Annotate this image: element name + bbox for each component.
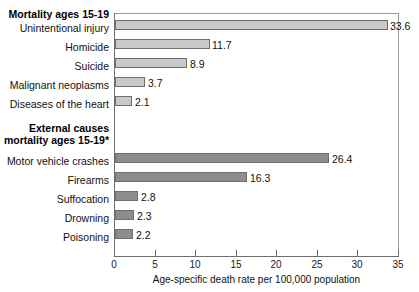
x-tick-20 xyxy=(276,250,277,257)
x-tick-label-25: 25 xyxy=(311,259,322,271)
bar-suicide xyxy=(115,58,187,68)
x-tick-30 xyxy=(357,250,358,257)
bar-drowning xyxy=(115,210,134,220)
x-tick-25 xyxy=(317,250,318,257)
group-header-mortality: Mortality ages 15-19 xyxy=(0,8,109,21)
x-tick-35 xyxy=(398,250,399,257)
group-header-external-causes-line1: External causes xyxy=(0,122,109,135)
x-tick-label-35: 35 xyxy=(392,259,403,271)
row-label-malignant-neoplasms: Malignant neoplasms xyxy=(0,79,109,91)
x-tick-5 xyxy=(155,250,156,257)
group-header-external-causes-line2: mortality ages 15-19* xyxy=(0,134,109,147)
bar-poisoning xyxy=(115,229,133,239)
row-label-suffocation: Suffocation xyxy=(0,193,109,205)
x-tick-15 xyxy=(236,250,237,257)
x-tick-label-20: 20 xyxy=(270,259,281,271)
bar-malignant-neoplasms xyxy=(115,77,145,87)
row-label-firearms: Firearms xyxy=(0,174,109,186)
x-tick-label-10: 10 xyxy=(189,259,200,271)
bar-value-malignant-neoplasms: 3.7 xyxy=(148,77,163,89)
bar-firearms xyxy=(115,172,247,182)
bar-chart: 0 5 10 15 20 25 30 35 Mortality ages 15-… xyxy=(0,0,419,292)
bar-motor-vehicle-crashes xyxy=(115,153,329,163)
bar-diseases-of-the-heart xyxy=(115,96,132,106)
bar-value-diseases-of-the-heart: 2.1 xyxy=(135,96,150,108)
row-label-unintentional-injury: Unintentional injury xyxy=(0,22,109,34)
row-label-motor-vehicle-crashes: Motor vehicle crashes xyxy=(0,155,109,167)
row-label-drowning: Drowning xyxy=(0,212,109,224)
x-axis-title: Age-specific death rate per 100,000 popu… xyxy=(114,274,399,286)
bar-suffocation xyxy=(115,191,138,201)
bar-homicide xyxy=(115,39,210,49)
plot-frame-right xyxy=(398,13,399,257)
row-label-suicide: Suicide xyxy=(0,60,109,72)
bar-value-suffocation: 2.8 xyxy=(141,191,156,203)
bar-value-unintentional-injury: 33.6 xyxy=(390,20,410,32)
y-axis-line xyxy=(114,13,115,257)
bar-value-firearms: 16.3 xyxy=(250,172,270,184)
bar-unintentional-injury xyxy=(115,20,388,30)
x-tick-label-5: 5 xyxy=(152,259,158,271)
bar-value-suicide: 8.9 xyxy=(190,58,205,70)
bar-value-poisoning: 2.2 xyxy=(136,229,151,241)
bar-value-homicide: 11.7 xyxy=(212,39,232,51)
x-tick-label-15: 15 xyxy=(230,259,241,271)
x-tick-label-30: 30 xyxy=(351,259,362,271)
x-tick-0 xyxy=(114,250,115,257)
row-label-homicide: Homicide xyxy=(0,41,109,53)
x-tick-label-0: 0 xyxy=(111,259,117,271)
bar-value-motor-vehicle-crashes: 26.4 xyxy=(332,153,352,165)
bar-value-drowning: 2.3 xyxy=(137,210,152,222)
plot-frame-top xyxy=(114,13,399,14)
x-tick-10 xyxy=(195,250,196,257)
row-label-diseases-of-the-heart: Diseases of the heart xyxy=(0,98,109,110)
row-label-poisoning: Poisoning xyxy=(0,231,109,243)
